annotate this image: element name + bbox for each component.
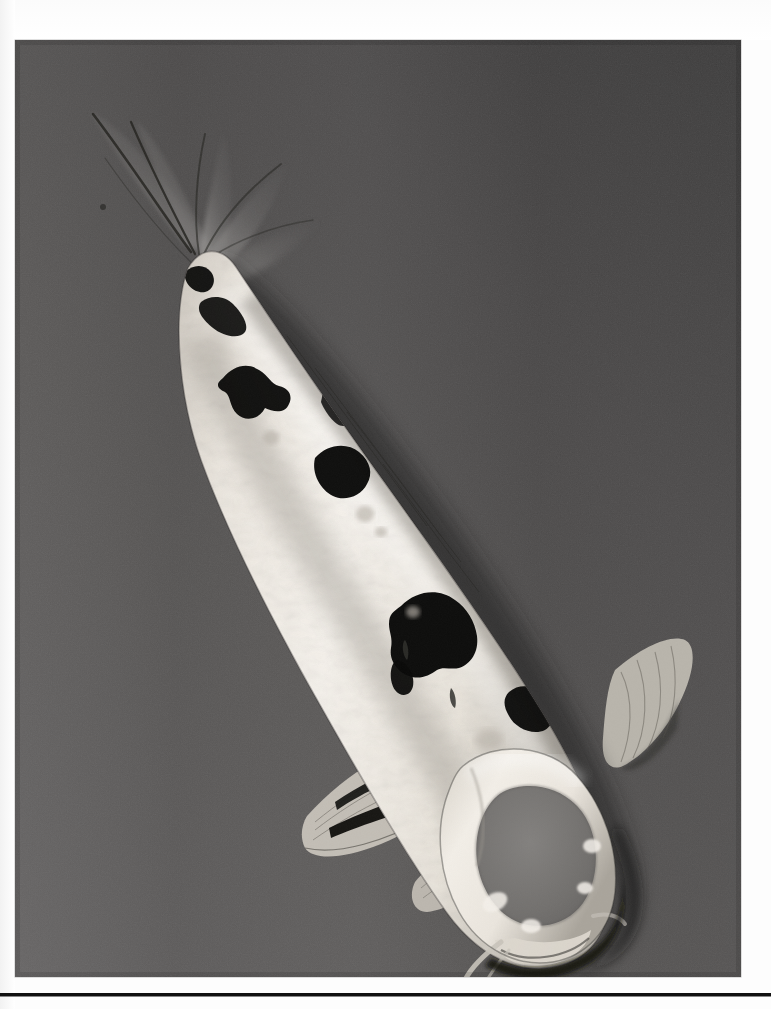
page-left-margin	[0, 0, 15, 1009]
photograph-plate	[15, 40, 741, 977]
koi-photograph	[15, 40, 741, 977]
horizontal-divider-shadow	[0, 996, 771, 997]
page-canvas	[0, 0, 771, 1009]
photo-grain-overlay	[15, 40, 741, 977]
page-top-margin	[0, 0, 771, 40]
